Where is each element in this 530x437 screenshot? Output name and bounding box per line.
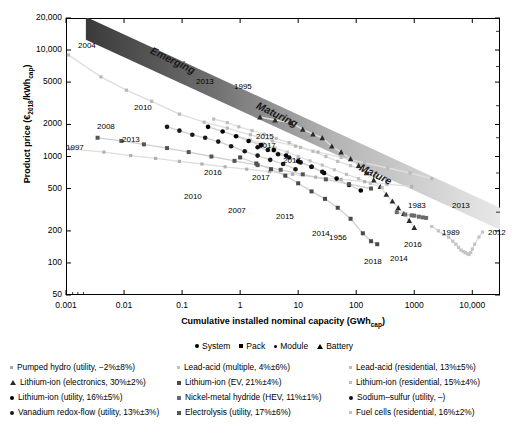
legend-item[interactable]: Fuel cells (residential, 16%±2%): [349, 407, 522, 418]
x-tick-label: 0.1: [152, 300, 212, 310]
square-marker-icon: [177, 411, 181, 415]
legend-item-label: Lithium-ion (EV, 21%±4%): [185, 377, 281, 388]
year-annotation: 2015: [256, 132, 274, 141]
year-annotation: 2015: [276, 212, 294, 221]
marker-legend-label: Battery: [326, 341, 353, 351]
marker-legend-item-module: Module: [274, 341, 308, 351]
legend-item[interactable]: Sodium–sulfur (utility, –): [349, 392, 522, 403]
year-annotation: 2014: [312, 229, 330, 238]
legend-item[interactable]: Lead-acid (residential, 13%±5%): [349, 362, 522, 373]
year-annotation: 1956: [329, 233, 347, 242]
year-annotation: 2013: [452, 201, 470, 210]
legend-item[interactable]: Pumped hydro (utility, −2%±8%): [10, 362, 177, 373]
legend-item-label: Lead-acid (residential, 13%±5%): [356, 362, 476, 373]
series-data-points: [67, 53, 484, 256]
dot-marker-icon: [349, 381, 352, 384]
legend-item-label: Vanadium redox-flow (utility, 13%±3%): [18, 407, 159, 418]
marker-type-legend: SystemPackModuleBattery: [195, 341, 353, 351]
year-annotation: 2017: [252, 173, 270, 182]
year-annotation: 2017: [283, 156, 301, 165]
legend-item[interactable]: Lithium-ion (EV, 21%±4%): [177, 377, 349, 388]
square-marker-icon: [177, 381, 181, 385]
chart-figure: 20,00010,00050002000100050020010050 0.00…: [0, 0, 530, 437]
series-legend: Pumped hydro (utility, −2%±8%)Lead-acid …: [10, 362, 522, 418]
circle-marker-icon: [10, 411, 14, 415]
x-tick-label: 10: [268, 300, 328, 310]
dot-marker-icon: [274, 345, 277, 348]
y-axis-title-sub1: 2018: [27, 100, 34, 114]
circle-marker-icon: [195, 344, 199, 348]
year-annotation: 2016: [404, 240, 422, 249]
x-tick-label: 10,000: [442, 300, 502, 310]
y-axis-title-b: /kWh: [22, 79, 32, 101]
year-annotation: 1997: [66, 143, 84, 152]
y-axis-title: Product price (€2018/kWhcap): [22, 34, 34, 214]
year-annotation: 2013: [122, 135, 140, 144]
square-marker-icon: [177, 396, 181, 400]
marker-legend-item-system: System: [195, 341, 230, 351]
x-tick-label: 100: [326, 300, 386, 310]
y-axis-title-c: ): [22, 65, 32, 68]
legend-item[interactable]: Lithium-ion (electronics, 30%±2%): [10, 377, 177, 388]
dot-marker-icon: [10, 366, 13, 369]
year-annotation: 2018: [364, 257, 382, 266]
x-axis-tick-labels: 0.0010.010.1110100100010,000: [0, 300, 530, 314]
circle-marker-icon: [10, 396, 14, 400]
year-annotation: 2014: [390, 254, 408, 263]
year-annotation: 2010: [184, 192, 202, 201]
legend-item[interactable]: Vanadium redox-flow (utility, 13%±3%): [10, 407, 177, 418]
legend-item[interactable]: Electrolysis (utility, 17%±6%): [177, 407, 349, 418]
y-tick-label: 20,000: [18, 13, 62, 22]
y-axis-title-a: Product price (€: [22, 115, 32, 184]
legend-item-label: Lithium-ion (residential, 15%±4%): [356, 377, 480, 388]
x-axis-title-sub: cap: [371, 321, 382, 328]
legend-item-label: Sodium–sulfur (utility, –): [357, 392, 445, 403]
circle-marker-icon: [349, 396, 353, 400]
legend-item-label: Nickel-metal hydride (HEV, 11%±1%): [185, 392, 321, 403]
x-tick-label: 0.001: [36, 300, 96, 310]
year-annotation: 2013: [196, 77, 214, 86]
legend-item[interactable]: Lead-acid (multiple, 4%±6%): [177, 362, 349, 373]
legend-item-label: Electrolysis (utility, 17%±6%): [185, 407, 291, 418]
triangle-marker-icon: [10, 380, 16, 385]
legend-item[interactable]: Lithium-ion (residential, 15%±4%): [349, 377, 522, 388]
y-tick-label: 100: [18, 258, 62, 267]
y-tick-label: 50: [18, 290, 62, 299]
year-annotation: 2007: [228, 206, 246, 215]
year-annotation: 1995: [234, 82, 252, 91]
x-tick-label: 1: [210, 300, 270, 310]
dot-marker-icon: [349, 366, 352, 369]
legend-item-label: Lithium-ion (utility, 16%±5%): [18, 392, 122, 403]
legend-item-label: Lithium-ion (electronics, 30%±2%): [20, 377, 146, 388]
year-annotation: 1983: [408, 201, 426, 210]
x-axis-title: Cumulative installed nominal capacity (G…: [66, 316, 500, 328]
legend-item-label: Fuel cells (residential, 16%±2%): [356, 407, 474, 418]
x-tick-label: 0.01: [94, 300, 154, 310]
year-annotation: 2017: [258, 141, 276, 150]
marker-legend-label: Pack: [246, 341, 265, 351]
x-axis-title-main: Cumulative installed nominal capacity (G…: [181, 316, 371, 326]
year-annotation: 2016: [204, 168, 222, 177]
year-annotation: 2010: [134, 103, 152, 112]
year-annotation: 2008: [97, 122, 115, 131]
square-marker-icon: [239, 344, 243, 348]
triangle-marker-icon: [317, 344, 323, 349]
legend-item-label: Lead-acid (multiple, 4%±6%): [184, 362, 290, 373]
legend-item[interactable]: Nickel-metal hydride (HEV, 11%±1%): [177, 392, 349, 403]
year-annotation: 2012: [488, 228, 506, 237]
year-annotation: 2004: [78, 41, 96, 50]
series-circle: [165, 125, 298, 172]
marker-legend-item-pack: Pack: [239, 341, 265, 351]
y-axis-title-sub2: cap: [27, 68, 34, 79]
marker-legend-label: System: [202, 341, 230, 351]
y-tick-label: 200: [18, 226, 62, 235]
x-tick-label: 1000: [384, 300, 444, 310]
marker-legend-item-battery: Battery: [317, 341, 353, 351]
dot-marker-icon: [349, 411, 352, 414]
year-annotation: 1989: [442, 228, 460, 237]
marker-legend-label: Module: [280, 341, 308, 351]
legend-item[interactable]: Lithium-ion (utility, 16%±5%): [10, 392, 177, 403]
x-axis-title-tail: ): [382, 316, 385, 326]
series-square: [395, 210, 428, 220]
legend-item-label: Pumped hydro (utility, −2%±8%): [17, 362, 135, 373]
